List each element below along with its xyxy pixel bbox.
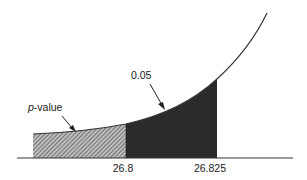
p-value-region xyxy=(33,124,126,158)
p-value-label: p-value xyxy=(27,101,63,113)
alpha-arrow xyxy=(150,84,162,105)
tick-label-26-825: 26.825 xyxy=(194,162,226,174)
tick-label-26-8: 26.8 xyxy=(113,162,134,174)
p-value-diagram: p-value 0.05 26.8 26.825 xyxy=(0,0,307,180)
alpha-arrowhead-icon xyxy=(158,102,165,110)
alpha-label: 0.05 xyxy=(131,69,152,81)
